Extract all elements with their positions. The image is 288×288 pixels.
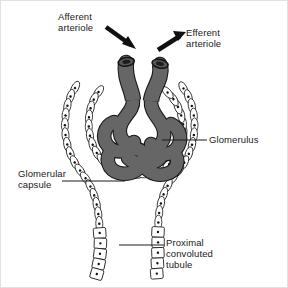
label-proximal-convoluted-tubule: Proximal convoluted tubule	[166, 237, 213, 270]
label-efferent-arteriole: Efferent arteriole	[186, 27, 221, 49]
proximal-convoluted-tubule-wall	[89, 226, 164, 280]
afferent-arteriole-vessel	[118, 56, 135, 100]
arrow-afferent-inflow	[106, 27, 136, 49]
glomerulus-diagram: Afferent arteriole Efferent arteriole Gl…	[0, 0, 288, 288]
label-afferent-arteriole: Afferent arteriole	[58, 11, 93, 33]
glomerular-capillary-tuft	[104, 62, 180, 175]
arrow-efferent-outflow	[158, 31, 186, 50]
label-glomerular-capsule: Glomerular capsule	[18, 168, 66, 190]
label-glomerulus: Glomerulus	[209, 134, 259, 145]
